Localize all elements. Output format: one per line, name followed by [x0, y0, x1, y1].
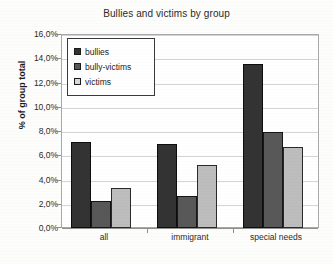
bar-bully-victims-immigrant[interactable]	[177, 196, 197, 228]
bar-bully-victims-special-needs[interactable]	[263, 132, 283, 228]
y-tick-label: 4,0%	[2, 175, 58, 185]
legend-label: bullies	[85, 47, 109, 57]
bar-bullies-immigrant[interactable]	[157, 144, 177, 228]
bar-group	[147, 34, 233, 228]
y-tick-label: 0,0%	[2, 223, 58, 233]
y-tick-label: 6,0%	[2, 150, 58, 160]
legend-swatch-icon	[74, 48, 81, 55]
legend-item-bully-victims[interactable]: bully-victims	[74, 59, 148, 74]
bar-bullies-special-needs[interactable]	[243, 64, 263, 228]
x-tick-label-special-needs: special needs	[233, 232, 319, 242]
bar-victims-special-needs[interactable]	[283, 147, 303, 228]
y-tick-label: 16,0%	[2, 29, 58, 39]
y-tick-label: 12,0%	[2, 78, 58, 88]
bar-group	[233, 34, 319, 228]
bar-bullies-all[interactable]	[71, 142, 91, 228]
bar-victims-all[interactable]	[111, 188, 131, 228]
legend-label: bully-victims	[85, 62, 131, 72]
y-tick-label: 2,0%	[2, 199, 58, 209]
x-tick-label-immigrant: immigrant	[147, 232, 233, 242]
x-tick-label-all: all	[61, 232, 147, 242]
y-tick-label: 14,0%	[2, 53, 58, 63]
legend-item-victims[interactable]: victims	[74, 74, 148, 89]
y-tick-label: 10,0%	[2, 102, 58, 112]
legend: bulliesbully-victimsvictims	[67, 38, 155, 96]
y-tick-label: 8,0%	[2, 126, 58, 136]
legend-swatch-icon	[74, 78, 81, 85]
legend-swatch-icon	[74, 63, 81, 70]
bar-chart: Bullies and victims by group % of group …	[0, 0, 333, 264]
bar-victims-immigrant[interactable]	[197, 165, 217, 228]
legend-label: victims	[85, 77, 111, 87]
legend-item-bullies[interactable]: bullies	[74, 44, 148, 59]
bar-bully-victims-all[interactable]	[91, 201, 111, 228]
